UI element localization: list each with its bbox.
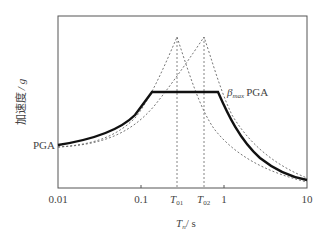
dashed-curve-t01 (58, 37, 307, 182)
solid-design-spectrum (58, 92, 307, 180)
x-tick-0.01: 0.01 (48, 193, 67, 205)
chart: 0.01 0.1 1 10 T01 T02 Tn/ s PGA βmaxPGA … (0, 0, 328, 248)
dashed-curve-t02 (58, 37, 307, 178)
t02-label: T02 (197, 193, 211, 207)
x-tick-10: 10 (302, 193, 314, 205)
x-tick-0.1: 0.1 (134, 193, 148, 205)
y-axis-label: 加速度/ g (14, 78, 27, 125)
plot-frame (58, 16, 307, 188)
x-axis-label: Tn/ s (176, 217, 196, 231)
svg-text:加速度/ g: 加速度/ g (14, 78, 27, 125)
beta-max-pga-label: βmaxPGA (226, 86, 268, 100)
t01-label: T01 (170, 193, 184, 207)
pga-label: PGA (33, 139, 55, 151)
x-tick-1: 1 (221, 193, 227, 205)
